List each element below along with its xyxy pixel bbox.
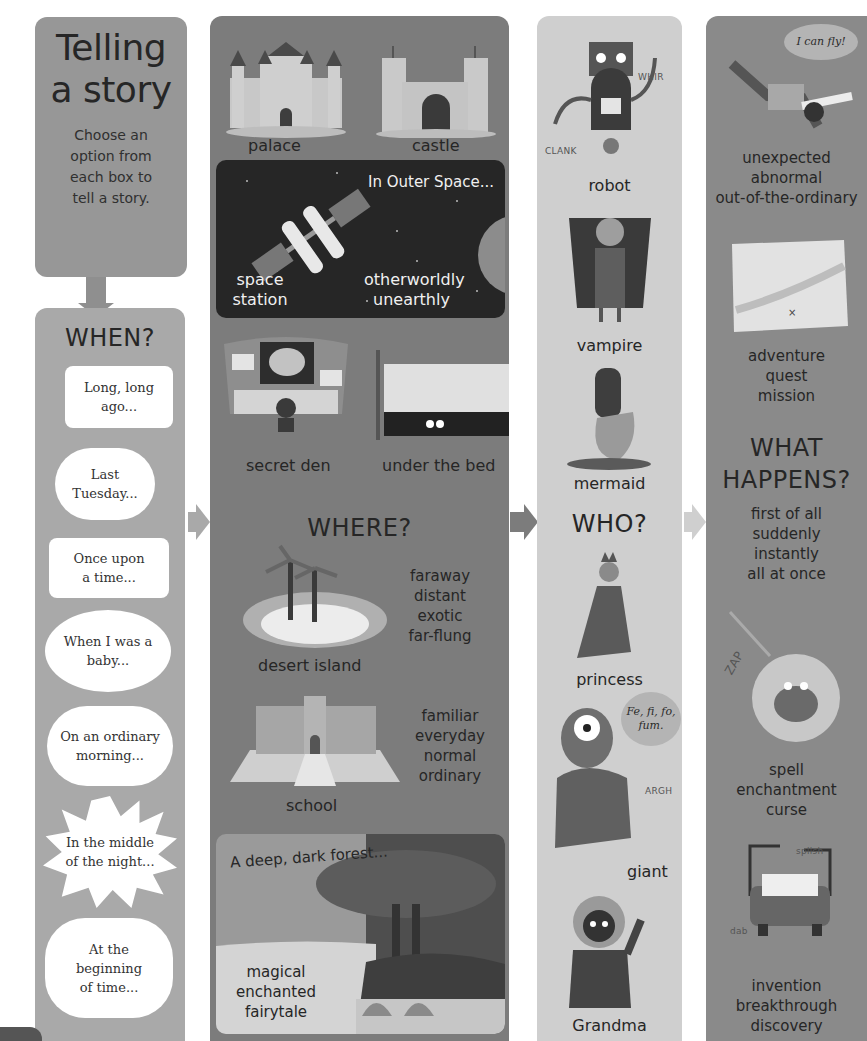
what-happens-column: I can fly! unexpected abnormal out-of-th… [706, 16, 867, 1041]
instructions-line: option from [35, 146, 187, 167]
place-label-under-bed: under the bed [382, 456, 495, 475]
character-label-robot: robot [537, 176, 682, 195]
adventure-words: adventure quest mission [706, 346, 867, 406]
character-label-giant: giant [627, 862, 668, 881]
place-label-secret-den: secret den [246, 456, 331, 475]
under-bed-illustration [374, 350, 509, 440]
forest-words: magical enchanted fairytale [226, 962, 326, 1022]
who-heading: WHO? [537, 510, 682, 538]
title-box: Telling a story Choose an option from ea… [35, 17, 187, 277]
when-option-middle-night[interactable]: In the middle of the night... [43, 796, 177, 908]
grandma-illustration [561, 890, 661, 1010]
place-label-school: school [286, 796, 337, 815]
when-column: WHEN? Long, long ago... Last Tuesday... … [35, 308, 185, 1041]
space-title: In Outer Space... [368, 172, 494, 192]
character-label-vampire: vampire [537, 336, 682, 355]
school-illustration [230, 696, 400, 786]
time-words: first of all suddenly instantly all at o… [706, 504, 867, 584]
planet-icon [478, 210, 505, 300]
who-column: WHIR CLANK robot vampire mermaid WHO? pr… [537, 16, 682, 1041]
place-label-castle: castle [412, 136, 460, 155]
car-sfx-splish: splish [796, 846, 824, 856]
instructions: Choose an option from each box to tell a… [35, 125, 187, 209]
character-label-mermaid: mermaid [537, 474, 682, 493]
palace-illustration [224, 34, 348, 138]
giant-speech-bubble: Fe, fi, fo, fum. [621, 692, 681, 746]
instructions-line: each box to [35, 167, 187, 188]
giant-sfx: ARGH [645, 786, 672, 796]
robot-sfx-whir: WHIR [638, 72, 664, 82]
svg-text:×: × [788, 307, 796, 318]
when-option-last-tuesday[interactable]: Last Tuesday... [55, 448, 155, 520]
unexpected-words: unexpected abnormal out-of-the-ordinary [706, 148, 867, 208]
when-heading: WHEN? [35, 324, 185, 352]
where-column: palace castle In Ou [210, 16, 509, 1041]
character-label-princess: princess [537, 670, 682, 689]
robot-sfx-clank: CLANK [545, 146, 577, 156]
vampire-illustration [565, 208, 655, 328]
outer-space-panel[interactable]: In Outer Space... space station otherwor… [216, 160, 505, 318]
corner-tab [0, 1027, 42, 1041]
when-option-ordinary-morning[interactable]: On an ordinary morning... [47, 706, 173, 786]
island-words: faraway distant exotic far-flung [400, 566, 480, 646]
what-happens-heading: WHAT HAPPENS? [706, 432, 867, 496]
page-title-line2: a story [35, 69, 187, 111]
treasure-map-illustration: × [726, 236, 850, 336]
fly-speech-bubble: I can fly! [784, 24, 858, 60]
when-option-once-upon[interactable]: Once upon a time... [49, 538, 169, 598]
mermaid-illustration [559, 362, 659, 472]
instructions-line: tell a story. [35, 188, 187, 209]
character-label-grandma: Grandma [537, 1016, 682, 1035]
invention-words: invention breakthrough discovery [706, 976, 867, 1036]
school-words: familiar everyday normal ordinary [406, 706, 494, 786]
place-label-palace: palace [248, 136, 301, 155]
space-words: otherworldly unearthly [364, 270, 459, 310]
secret-den-illustration [222, 334, 350, 444]
when-option-baby[interactable]: When I was a baby... [45, 610, 171, 692]
princess-illustration [571, 552, 651, 664]
desert-island-illustration [240, 544, 390, 650]
forest-panel[interactable]: A deep, dark forest... magical enchanted… [216, 834, 505, 1034]
when-option-beginning-time[interactable]: At the beginning of time... [45, 918, 173, 1018]
when-option-long-ago[interactable]: Long, long ago... [65, 366, 173, 428]
page-title-line1: Telling [35, 27, 187, 69]
instructions-line: Choose an [35, 125, 187, 146]
frog-spell-illustration [716, 606, 866, 756]
castle-illustration [374, 38, 498, 138]
spell-words: spell enchantment curse [706, 760, 867, 820]
where-heading: WHERE? [210, 514, 509, 542]
car-sfx-dab: dab [730, 926, 748, 936]
place-label-space-station: space station [230, 270, 290, 310]
place-label-desert-island: desert island [258, 656, 361, 675]
